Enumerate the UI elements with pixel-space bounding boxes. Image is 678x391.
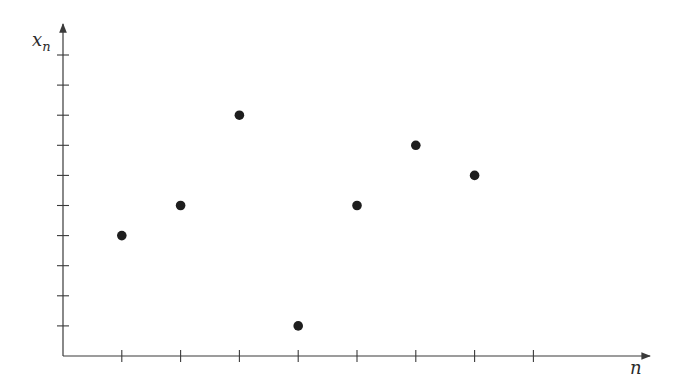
data-point xyxy=(176,201,186,211)
y-axis-label-main: x xyxy=(32,29,42,50)
data-point xyxy=(470,171,480,181)
y-axis-label: xn xyxy=(32,29,51,54)
data-points xyxy=(117,110,479,330)
data-point xyxy=(293,321,303,331)
scatter-plot: n xn xyxy=(0,0,678,391)
data-point xyxy=(352,201,362,211)
data-point xyxy=(235,110,245,120)
x-axis-label: n xyxy=(630,357,642,378)
y-axis-label-subscript: n xyxy=(42,39,50,54)
data-point xyxy=(411,141,421,151)
data-point xyxy=(117,231,127,241)
